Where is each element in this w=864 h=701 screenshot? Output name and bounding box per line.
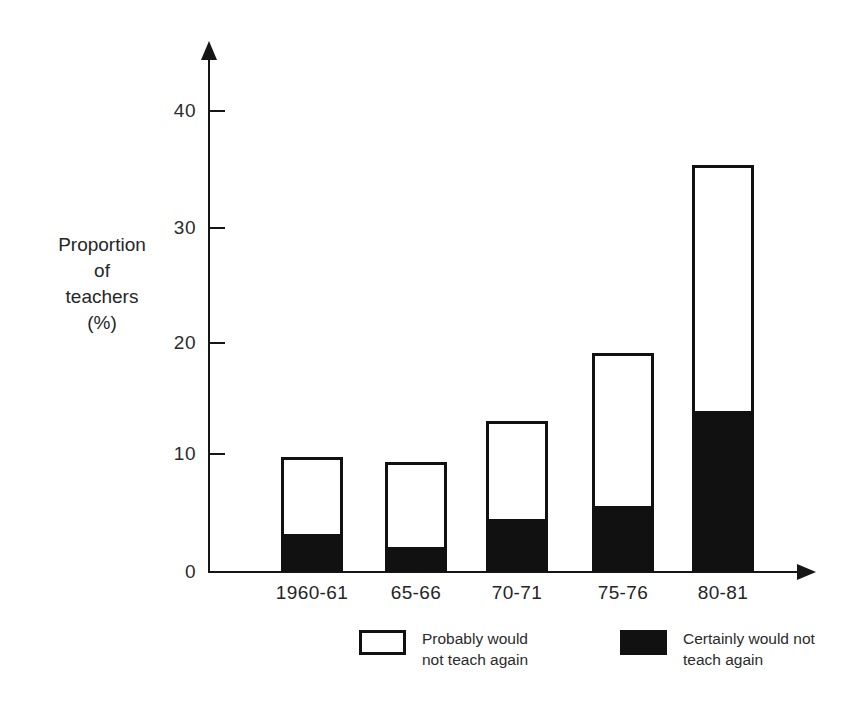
legend-swatch-open-icon (359, 630, 406, 655)
y-tick-0: 0 (0, 562, 196, 582)
y-tick-40: 40 (0, 101, 196, 121)
bar-segment-certainly-65-66 (388, 547, 444, 569)
legend-item-certainly-would-not-teach-again: Certainly would not teach again (620, 628, 815, 670)
y-axis-line (208, 55, 210, 573)
y-tick-mark-30 (210, 227, 225, 229)
y-axis-title: Proportion of teachers (%) (28, 232, 176, 336)
bar-65-66[interactable] (385, 462, 447, 572)
bar-70-71[interactable] (486, 421, 548, 572)
bar-segment-certainly-80-81 (695, 411, 751, 569)
stacked-bar-chart-figure: 0 10 20 30 40 Proportion of teachers (%)… (0, 0, 864, 701)
y-tick-mark-20 (210, 342, 225, 344)
legend-label-probably-line-1: Probably would (422, 628, 528, 649)
x-axis-label-80-81: 80-81 (653, 582, 793, 604)
legend-label-certainly-line-1: Certainly would not (683, 628, 815, 649)
legend-item-probably-would-not-teach-again: Probably would not teach again (359, 628, 528, 670)
y-axis-title-line-1: Proportion (28, 232, 176, 258)
y-tick-label-0: 0 (150, 562, 196, 581)
bar-1960-61[interactable] (281, 457, 343, 573)
chart-legend: Probably would not teach again Certainly… (0, 625, 864, 685)
legend-label-certainly-line-2: teach again (683, 649, 815, 670)
bar-80-81[interactable] (692, 165, 754, 572)
y-axis-title-line-3: teachers (28, 284, 176, 310)
legend-label-certainly: Certainly would not teach again (683, 628, 815, 670)
bar-segment-certainly-70-71 (489, 519, 545, 569)
x-axis-arrowhead (797, 564, 816, 580)
y-tick-mark-10 (210, 453, 225, 455)
legend-swatch-filled-icon (620, 630, 667, 655)
y-tick-label-10: 10 (150, 444, 196, 463)
legend-label-probably-line-2: not teach again (422, 649, 528, 670)
legend-label-probably: Probably would not teach again (422, 628, 528, 670)
bar-segment-certainly-1960-61 (284, 534, 340, 569)
y-axis-title-line-4: (%) (28, 310, 176, 336)
y-tick-label-40: 40 (150, 101, 196, 120)
y-axis-title-line-2: of (28, 258, 176, 284)
y-tick-mark-40 (210, 110, 225, 112)
bar-segment-certainly-75-76 (595, 506, 651, 569)
bar-75-76[interactable] (592, 353, 654, 572)
y-tick-20: 20 (0, 333, 196, 353)
y-tick-10: 10 (0, 444, 196, 464)
